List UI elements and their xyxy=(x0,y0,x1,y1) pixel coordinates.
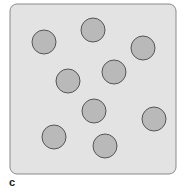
particle xyxy=(131,36,155,60)
particle xyxy=(42,125,66,149)
particle xyxy=(142,107,166,131)
particle-diagram xyxy=(0,0,186,195)
particle xyxy=(93,134,117,158)
particle xyxy=(82,99,106,123)
panel-label: c xyxy=(9,176,15,188)
particle xyxy=(81,18,105,42)
particle xyxy=(56,69,80,93)
particle xyxy=(32,30,56,54)
particle xyxy=(102,60,126,84)
